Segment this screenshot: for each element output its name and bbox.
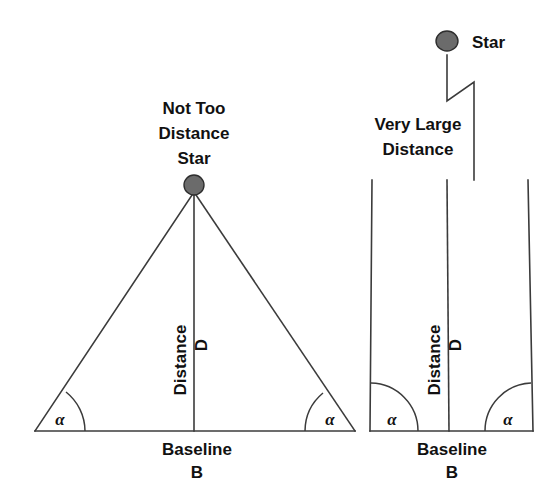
far-star-label: Star bbox=[472, 33, 505, 52]
near-star-label-line-3: Star bbox=[177, 149, 210, 168]
parallax-diagram-figure: Not Too Distance Star α α Distance D Bas… bbox=[0, 0, 556, 502]
far-star-distance-caption-line-2: Distance bbox=[383, 140, 454, 159]
far-star-baseline-symbol: B bbox=[446, 463, 458, 482]
near-star-left-angle-label: α bbox=[55, 410, 65, 429]
far-star-distance-line bbox=[447, 180, 449, 431]
near-star-label-line-2: Distance bbox=[159, 124, 230, 143]
far-star-right-sightline bbox=[528, 180, 533, 431]
far-star-marker bbox=[436, 31, 458, 51]
near-star-right-angle-label: α bbox=[325, 410, 335, 429]
panel-near-star: Not Too Distance Star α α Distance D Bas… bbox=[35, 99, 355, 482]
near-star-distance-label: Distance bbox=[171, 325, 190, 396]
near-star-label-line-1: Not Too bbox=[163, 99, 226, 118]
near-star-distance-symbol: D bbox=[192, 339, 211, 351]
near-star-right-angle-arc bbox=[305, 393, 323, 431]
far-star-distance-caption-line-1: Very Large bbox=[375, 115, 462, 134]
panel-far-star: Star Very Large Distance α α Distance D … bbox=[370, 31, 533, 482]
far-star-baseline-label: Baseline bbox=[417, 440, 487, 459]
near-star-right-sightline bbox=[194, 192, 355, 431]
far-star-left-sightline bbox=[370, 180, 372, 431]
near-star-marker bbox=[184, 175, 204, 195]
far-star-distance-symbol: D bbox=[446, 339, 465, 351]
far-star-distance-label: Distance bbox=[425, 325, 444, 396]
far-star-left-angle-label: α bbox=[387, 410, 397, 429]
near-star-baseline-label: Baseline bbox=[162, 440, 232, 459]
far-star-right-angle-label: α bbox=[503, 410, 513, 429]
near-star-left-angle-arc bbox=[66, 392, 85, 431]
diagram-canvas: Not Too Distance Star α α Distance D Bas… bbox=[0, 0, 556, 502]
near-star-baseline-symbol: B bbox=[191, 463, 203, 482]
